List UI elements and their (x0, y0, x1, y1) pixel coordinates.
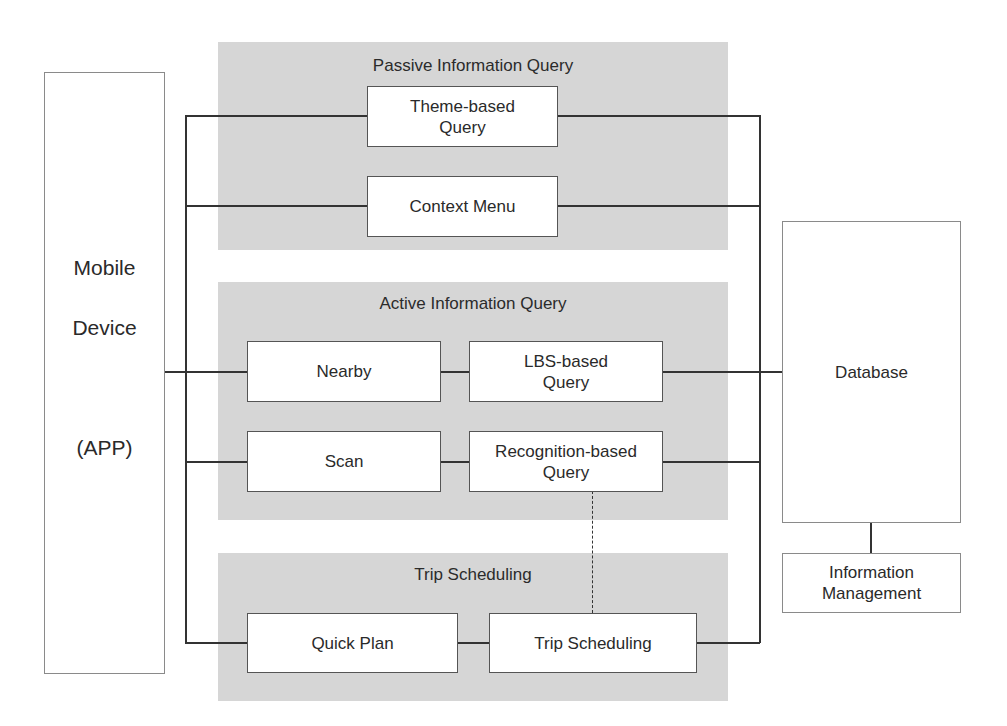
lbs-based-query-box: LBS-based Query (469, 341, 663, 402)
recognition-based-query-box: Recognition-based Query (469, 431, 663, 492)
connector-left-bus (185, 115, 187, 643)
theme-based-query-box: Theme-based Query (367, 86, 558, 147)
dashed-connector-recognition-to-trip (592, 491, 593, 613)
connector-bus-to-scan (185, 461, 247, 463)
connector-bus-to-theme (185, 115, 367, 117)
mobile-device-box: Mobile Device (APP) (44, 72, 165, 674)
trip-scheduling-box: Trip Scheduling (489, 613, 697, 673)
scan-box: Scan (247, 431, 441, 492)
connector-mobile-to-bus (164, 371, 247, 373)
connector-quickplan-to-trip (458, 642, 489, 644)
connector-context-to-rbus (558, 205, 760, 207)
connector-right-bus (759, 115, 761, 643)
connector-recognition-to-rbus (663, 461, 760, 463)
connector-bus-to-quickplan (185, 642, 247, 644)
connector-nearby-to-lbs (440, 371, 469, 373)
quick-plan-box: Quick Plan (247, 613, 458, 673)
connector-rbus-to-database (759, 371, 782, 373)
context-menu-box: Context Menu (367, 176, 558, 237)
connector-scan-to-recognition (440, 461, 469, 463)
nearby-box: Nearby (247, 341, 441, 402)
connector-lbs-to-rbus (663, 371, 760, 373)
mobile-device-label-3: (APP) (72, 433, 136, 463)
connector-bus-to-context (185, 205, 367, 207)
passive-query-title: Passive Information Query (218, 56, 728, 76)
mobile-device-label-1: Mobile (72, 253, 136, 283)
information-management-box: Information Management (782, 553, 961, 613)
mobile-device-label-2: Device (72, 313, 136, 343)
database-box: Database (782, 221, 961, 523)
connector-database-to-infomgmt (870, 522, 872, 553)
connector-trip-to-rbus (697, 642, 760, 644)
active-query-title: Active Information Query (218, 294, 728, 314)
trip-scheduling-title: Trip Scheduling (218, 565, 728, 585)
connector-theme-to-rbus (558, 115, 760, 117)
